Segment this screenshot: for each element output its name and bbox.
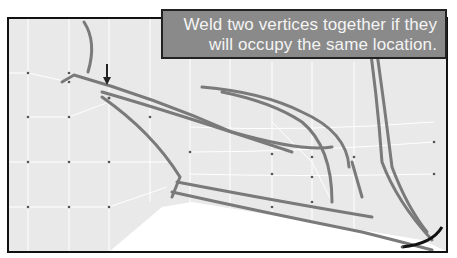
caption-box: Weld two vertices together if they will … — [161, 9, 447, 59]
caption-line-1: Weld two vertices together if they — [163, 15, 437, 35]
caption-line-2: will occupy the same location. — [163, 35, 437, 55]
down-arrow-icon — [103, 64, 111, 86]
empty-region — [110, 202, 446, 251]
